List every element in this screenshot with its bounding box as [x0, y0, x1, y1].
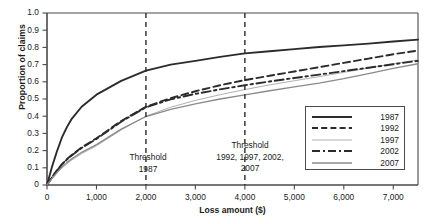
legend-item-2007: 2007 — [310, 157, 402, 168]
legend-item-1997: 1997 — [310, 134, 402, 145]
legend-item-1987: 1987 — [310, 111, 402, 122]
legend-swatch-1997 — [310, 135, 354, 145]
legend-label-2007: 2007 — [354, 158, 402, 168]
chart-figure: Proportion of claims Loss amount ($) 1.0… — [0, 0, 429, 224]
legend-label-1997: 1997 — [354, 135, 402, 145]
legend-label-2002: 2002 — [354, 146, 402, 156]
legend-item-2002: 2002 — [310, 146, 402, 157]
legend-swatch-2002 — [310, 146, 354, 156]
legend-item-1992: 1992 — [310, 123, 402, 134]
legend-label-1987: 1987 — [354, 112, 402, 122]
chart-legend: 19871992199720022007 — [305, 106, 405, 170]
legend-swatch-1987 — [310, 112, 354, 122]
legend-label-1992: 1992 — [354, 123, 402, 133]
legend-swatch-1992 — [310, 123, 354, 133]
legend-swatch-2007 — [310, 158, 354, 168]
